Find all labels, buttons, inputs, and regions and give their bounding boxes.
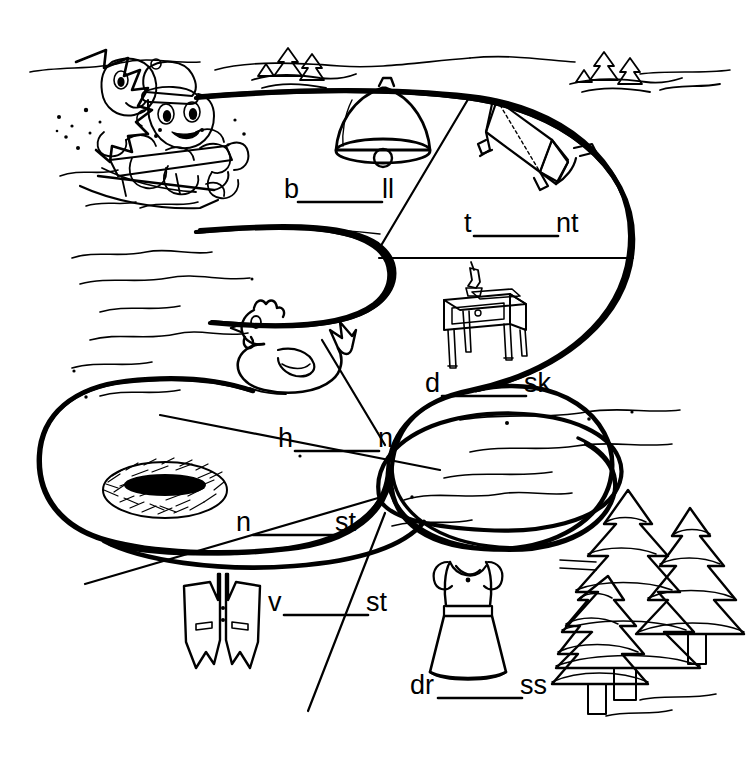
word-prefix-nest: n	[236, 507, 251, 537]
worksheet-canvas: b ll t nt d sk h n	[0, 0, 747, 773]
worksheet-page: b ll t nt d sk h n	[0, 0, 747, 773]
word-suffix-desk: sk	[524, 368, 552, 398]
word-suffix-nest: st	[335, 507, 357, 537]
word-prefix-hen: h	[278, 423, 293, 453]
word-suffix-bell: ll	[382, 174, 394, 204]
word-suffix-hen: n	[378, 423, 393, 453]
word-prefix-dress: dr	[410, 670, 434, 700]
word-suffix-dress: ss	[520, 670, 547, 700]
page-background	[0, 0, 747, 773]
word-suffix-vest: st	[366, 587, 388, 617]
word-suffix-tent: nt	[556, 208, 579, 238]
word-prefix-desk: d	[425, 368, 440, 398]
word-prefix-bell: b	[284, 174, 299, 204]
word-prefix-tent: t	[464, 208, 472, 238]
word-prefix-vest: v	[268, 587, 282, 617]
